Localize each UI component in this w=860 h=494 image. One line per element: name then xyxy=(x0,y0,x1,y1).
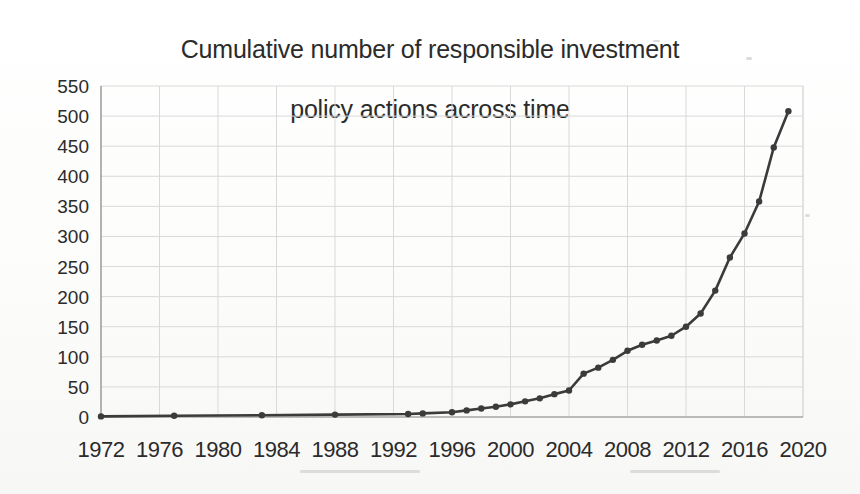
data-point-marker xyxy=(522,398,528,404)
data-point-marker xyxy=(785,108,791,114)
data-point-marker xyxy=(712,287,718,293)
data-point-marker xyxy=(683,324,689,330)
y-axis-tick-label: 350 xyxy=(57,196,89,217)
data-series-line xyxy=(101,111,788,416)
x-axis-tick-labels: 1972197619801984198819921996200020042008… xyxy=(78,437,827,462)
y-axis-tick-label: 300 xyxy=(57,226,89,247)
x-axis-tick-label: 1976 xyxy=(136,437,183,462)
x-axis-tick-label: 2008 xyxy=(604,437,651,462)
x-axis-tick-label: 1992 xyxy=(370,437,417,462)
y-axis-tick-label: 500 xyxy=(57,106,89,127)
data-point-marker xyxy=(654,337,660,343)
data-point-marker xyxy=(537,395,543,401)
data-point-marker xyxy=(771,144,777,150)
x-axis-tick-label: 1972 xyxy=(78,437,125,462)
scan-speck xyxy=(746,57,752,60)
data-point-marker xyxy=(449,409,455,415)
data-point-marker xyxy=(639,342,645,348)
x-axis-tick-label: 2004 xyxy=(546,437,593,462)
x-axis-tick-label: 1984 xyxy=(253,437,300,462)
x-axis-tick-label: 1996 xyxy=(429,437,476,462)
grid-layer xyxy=(101,86,803,417)
data-point-marker xyxy=(566,387,572,393)
line-chart-svg: 050100150200250300350400450500550 197219… xyxy=(0,0,860,494)
y-axis-tick-label: 400 xyxy=(57,166,89,187)
data-point-marker xyxy=(756,198,762,204)
y-axis-tick-label: 550 xyxy=(57,76,89,97)
y-axis-tick-label: 200 xyxy=(57,287,89,308)
scan-speck xyxy=(630,470,720,473)
data-point-marker xyxy=(697,310,703,316)
x-axis-tick-label: 2012 xyxy=(663,437,710,462)
data-point-marker xyxy=(595,364,601,370)
scan-speck xyxy=(653,40,660,42)
data-series-layer xyxy=(98,108,792,420)
y-axis-tick-label: 0 xyxy=(78,407,89,428)
y-axis-tick-label: 150 xyxy=(57,317,89,338)
data-point-marker xyxy=(668,333,674,339)
data-point-marker xyxy=(580,370,586,376)
y-axis-tick-label: 50 xyxy=(68,377,89,398)
scan-speck xyxy=(805,214,810,217)
data-point-marker xyxy=(420,410,426,416)
x-axis-tick-label: 1980 xyxy=(195,437,242,462)
scan-artifacts xyxy=(300,40,810,473)
plot-area: 050100150200250300350400450500550 197219… xyxy=(0,0,860,494)
data-point-marker xyxy=(741,230,747,236)
data-point-marker xyxy=(727,254,733,260)
x-axis-tick-label: 2020 xyxy=(780,437,827,462)
x-axis-tick-label: 1988 xyxy=(312,437,359,462)
data-point-marker xyxy=(171,413,177,419)
data-point-marker xyxy=(507,401,513,407)
data-point-marker xyxy=(463,407,469,413)
data-point-marker xyxy=(551,391,557,397)
data-point-marker xyxy=(405,411,411,417)
data-point-marker xyxy=(610,357,616,363)
data-point-marker xyxy=(259,412,265,418)
y-axis-tick-label: 250 xyxy=(57,257,89,278)
y-axis-tick-labels: 050100150200250300350400450500550 xyxy=(57,76,89,428)
data-point-marker xyxy=(332,411,338,417)
x-axis-tick-label: 2000 xyxy=(487,437,534,462)
x-axis-tick-label: 2016 xyxy=(721,437,768,462)
chart-figure: Cumulative number of responsible investm… xyxy=(0,0,860,494)
data-point-marker xyxy=(493,404,499,410)
y-axis-tick-label: 100 xyxy=(57,347,89,368)
data-point-marker xyxy=(624,348,630,354)
data-point-marker xyxy=(478,405,484,411)
data-point-marker xyxy=(98,413,104,419)
scan-speck xyxy=(300,470,420,473)
y-axis-tick-label: 450 xyxy=(57,136,89,157)
